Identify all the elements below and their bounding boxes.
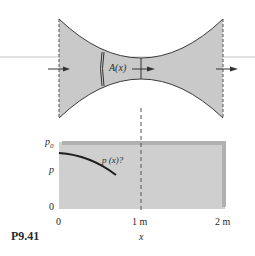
- right-band: [222, 141, 226, 207]
- figure-label: P9.41: [11, 230, 39, 242]
- y-tick-p0-sub: 0: [50, 142, 54, 150]
- x-axis-label: x: [139, 232, 143, 242]
- y-tick-p: p: [49, 165, 54, 175]
- p0-band: [62, 141, 226, 145]
- area-label: A(x): [109, 63, 126, 73]
- x-tick-0: 0: [56, 217, 61, 227]
- y-tick-zero: 0: [49, 202, 54, 212]
- plot-area: [59, 142, 225, 209]
- curve-label: p (x)?: [102, 156, 123, 165]
- x-tick-1m: 1 m: [132, 217, 147, 227]
- x-tick-2m: 2 m: [215, 217, 230, 227]
- y-tick-p0: p0: [45, 137, 54, 150]
